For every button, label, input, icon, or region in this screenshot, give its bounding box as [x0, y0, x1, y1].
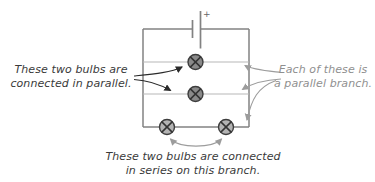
series-bulbs-double-arrow: [171, 139, 222, 146]
label-series-bulbs-line1: These two bulbs are connected: [100, 150, 286, 164]
bulb-series-left-icon: [160, 120, 175, 135]
label-parallel-branches: Each of these is a parallel branch.: [270, 63, 375, 90]
label-parallel-branches-line2: a parallel branch.: [270, 77, 375, 91]
label-series-bulbs-line2: in series on this branch.: [100, 164, 286, 178]
label-parallel-branches-line1: Each of these is: [270, 63, 375, 77]
label-parallel-bulbs-line2: connected in parallel.: [2, 77, 140, 91]
left-annotation-arrow-to-bulb-1: [134, 67, 182, 76]
label-parallel-bulbs: These two bulbs are connected in paralle…: [2, 63, 140, 90]
bulb-parallel-branch-2-icon: [188, 87, 203, 102]
battery-plus-label: +: [203, 9, 211, 19]
bulb-parallel-branch-1-icon: [188, 55, 203, 70]
bulb-series-right-icon: [219, 120, 234, 135]
circuit-figure: + These two bulbs are conne: [0, 0, 375, 182]
label-series-bulbs: These two bulbs are connected in series …: [100, 150, 286, 177]
label-parallel-bulbs-line1: These two bulbs are: [2, 63, 140, 77]
